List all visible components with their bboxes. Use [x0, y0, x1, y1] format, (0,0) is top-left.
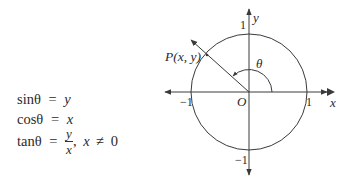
tick-label-neg-y: −1: [235, 153, 248, 167]
point-p-dot: [206, 54, 209, 57]
terminal-ray: [191, 40, 249, 92]
origin-label: O: [237, 94, 247, 109]
tick-label-pos-y: 1: [240, 18, 246, 32]
unit-circle-diagram: P(x, y) θ O x y 1 −1 1 −1: [0, 0, 353, 189]
point-label: P(x, y): [164, 49, 201, 64]
x-axis-label: x: [329, 95, 336, 110]
angle-label: θ: [256, 56, 263, 71]
tick-label-pos-x: 1: [306, 95, 312, 109]
angle-arc: [233, 70, 272, 92]
tick-label-neg-x: −1: [180, 95, 193, 109]
y-axis-label: y: [251, 10, 259, 25]
